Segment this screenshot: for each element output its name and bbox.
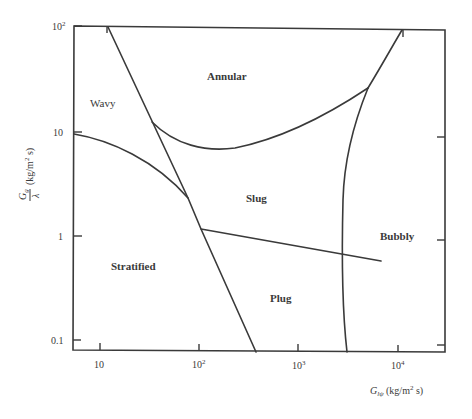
boundary-annular-slug <box>152 88 368 149</box>
y-tick-1: 1 <box>58 231 63 242</box>
y-axis-title: Gg λ (kg/m2 s) <box>17 148 41 201</box>
svg-text:104: 104 <box>391 359 405 371</box>
boundary-slug-plug <box>201 229 381 261</box>
svg-text:102: 102 <box>192 358 206 370</box>
svg-text:102: 102 <box>52 20 66 32</box>
x-axis-ticks <box>100 26 403 352</box>
svg-text:Gg: Gg <box>17 189 30 200</box>
flow-regime-map: Annular Wavy Slug Stratified Plug Bubbly… <box>0 0 472 419</box>
x-tick-1000: 10 <box>292 360 302 371</box>
x-tick-10: 10 <box>94 359 104 370</box>
svg-text:103: 103 <box>292 359 306 371</box>
region-plug: Plug <box>270 292 292 304</box>
y-axis-ticks <box>73 26 445 345</box>
boundary-bubbly <box>342 88 368 352</box>
y-tick-10: 10 <box>53 127 63 138</box>
region-bubbly: Bubbly <box>380 230 415 242</box>
svg-text:(kg/m2 s): (kg/m2 s) <box>23 148 36 185</box>
region-slug: Slug <box>246 192 267 204</box>
y-tick-0-1: 0.1 <box>51 335 64 346</box>
y-tick-100: 10 <box>52 21 62 32</box>
boundary-stratified <box>74 134 188 198</box>
plot-frame <box>73 26 445 352</box>
boundary-annular-bubbly <box>368 30 402 88</box>
region-labels: Annular Wavy Slug Stratified Plug Bubbly <box>90 70 415 304</box>
svg-text:λ: λ <box>30 193 41 199</box>
y-tick-labels: 102 10 1 0.1 <box>51 20 66 346</box>
region-annular: Annular <box>207 70 247 82</box>
region-wavy: Wavy <box>90 97 116 109</box>
region-stratified: Stratified <box>111 260 156 272</box>
x-tick-10000: 10 <box>391 360 401 371</box>
x-tick-100: 10 <box>192 359 202 370</box>
x-axis-title: Glψ (kg/m2 s) <box>370 384 423 398</box>
x-tick-labels: 10 102 103 104 <box>94 358 405 371</box>
